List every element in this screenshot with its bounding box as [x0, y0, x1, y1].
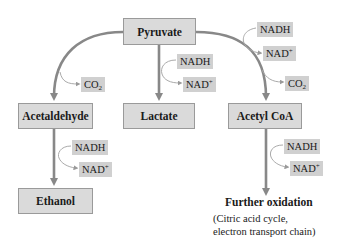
pill-co2-right: CO2 — [285, 76, 309, 91]
nad-superscript: + — [209, 78, 213, 86]
node-pyruvate-label: Pyruvate — [137, 26, 182, 38]
nadh-text: NADH — [180, 56, 210, 67]
further-oxidation-title: Further oxidation — [225, 196, 313, 208]
pill-nad-ethanol: NAD+ — [79, 162, 112, 177]
nadh-text: NADH — [75, 142, 105, 153]
pill-nad-oxidation: NAD+ — [290, 161, 323, 176]
pill-nadh-ethanol: NADH — [72, 140, 108, 155]
pill-nadh-lactate: NADH — [177, 54, 213, 69]
pill-nadh-oxidation: NADH — [284, 139, 320, 154]
node-acetaldehyde-label: Acetaldehyde — [22, 110, 88, 122]
nad-text: NAD — [82, 164, 105, 175]
co2-text: CO — [288, 78, 303, 89]
nadh-text: NADH — [260, 24, 290, 35]
arrow-co2-release-left — [60, 72, 78, 84]
further-oxidation-note-line2: electron transport chain) — [213, 225, 316, 238]
nadh-text: NADH — [287, 141, 317, 152]
node-lactate: Lactate — [123, 103, 195, 129]
nad-text: NAD — [293, 163, 316, 174]
nad-text: NAD — [186, 79, 209, 90]
nad-text: NAD — [266, 48, 289, 59]
node-ethanol-label: Ethanol — [36, 195, 75, 207]
node-acetyl-coa: Acetyl CoA — [228, 103, 302, 129]
pill-nad-lactate: NAD+ — [183, 77, 216, 92]
nad-superscript: + — [316, 162, 320, 170]
co2-subscript: 2 — [99, 84, 103, 92]
node-acetyl-coa-label: Acetyl CoA — [237, 110, 294, 122]
node-pyruvate: Pyruvate — [123, 18, 196, 45]
pill-nadh-acetyl: NADH — [257, 22, 293, 37]
pyruvate-fate-diagram: Pyruvate Acetaldehyde Lactate Acetyl CoA… — [0, 0, 342, 244]
node-ethanol: Ethanol — [18, 188, 93, 214]
nad-superscript: + — [105, 163, 109, 171]
further-oxidation-note-line1: (Citric acid cycle, — [213, 212, 288, 225]
co2-text: CO — [84, 79, 99, 90]
nad-superscript: + — [289, 47, 293, 55]
pill-co2-left: CO2 — [81, 77, 105, 92]
node-acetaldehyde: Acetaldehyde — [18, 103, 93, 129]
pill-nad-acetyl: NAD+ — [263, 46, 296, 61]
node-lactate-label: Lactate — [140, 110, 177, 122]
co2-subscript: 2 — [303, 83, 307, 91]
